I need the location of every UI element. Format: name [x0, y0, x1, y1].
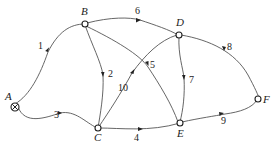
edge-label-5: 5 — [150, 59, 155, 70]
node-label-c: C — [94, 131, 102, 143]
arrow-icon — [101, 72, 105, 77]
edge-label-9: 9 — [221, 115, 226, 126]
node-f: F — [255, 93, 270, 105]
arrow-icon — [222, 46, 226, 51]
node-label-b: B — [81, 5, 88, 17]
edge-label-8: 8 — [227, 41, 232, 52]
node-a: A — [4, 90, 19, 111]
edge-6-b-d: 6 — [87, 5, 178, 35]
arrow-icon — [138, 127, 143, 131]
edge-1-a-b: 1 — [15, 24, 85, 104]
network-diagram: 1 2 3 4 5 6 7 8 9 — [0, 0, 279, 149]
node-c: C — [94, 125, 102, 143]
node-label-d: D — [175, 16, 184, 28]
edge-2-b-c: 2 — [85, 25, 113, 128]
edge-label-3: 3 — [54, 109, 59, 120]
edge-8-d-f: 8 — [181, 35, 260, 100]
edge-10-c-d: 10 — [98, 35, 177, 128]
arrow-icon — [130, 69, 135, 74]
edge-label-7: 7 — [189, 74, 194, 85]
edge-label-6: 6 — [135, 5, 140, 16]
node-d: D — [175, 16, 184, 38]
edge-7-d-e: 7 — [179, 36, 194, 122]
edge-label-2: 2 — [108, 68, 113, 79]
edge-9-e-f: 9 — [182, 100, 257, 126]
node-label-f: F — [262, 93, 270, 105]
arrow-icon — [136, 18, 141, 23]
edge-label-10: 10 — [118, 82, 128, 93]
arrow-icon — [182, 75, 186, 80]
edge-4-c-e: 4 — [99, 123, 180, 143]
node-b: B — [81, 5, 88, 27]
node-label-a: A — [4, 90, 12, 102]
node-e: E — [176, 120, 184, 139]
edge-label-1: 1 — [38, 40, 43, 51]
node-label-e: E — [176, 127, 184, 139]
edge-3-a-c: 3 — [18, 107, 97, 128]
edge-label-4: 4 — [134, 132, 139, 143]
